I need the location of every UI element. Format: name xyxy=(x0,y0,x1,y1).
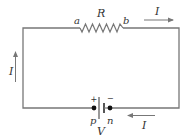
terminal-a-label: a xyxy=(74,15,80,26)
terminal-n-dot xyxy=(108,106,113,111)
wire-top-right xyxy=(110,28,179,108)
circuit-diagram: a R b I I + − p n V I xyxy=(0,0,189,138)
current-label-bottom: I xyxy=(141,119,147,132)
battery-voltage-label: V xyxy=(97,125,106,138)
battery-positive-sign: + xyxy=(91,95,98,104)
current-label-top: I xyxy=(154,5,160,18)
battery-negative-sign: − xyxy=(107,94,114,103)
terminal-p-label: p xyxy=(90,115,97,126)
resistor-label: R xyxy=(96,7,105,20)
current-label-left: I xyxy=(8,65,14,78)
circuit-wires xyxy=(23,28,179,108)
resistor-zigzag xyxy=(80,24,123,32)
terminal-p-dot xyxy=(92,106,97,111)
terminal-b-label: b xyxy=(123,15,129,26)
terminal-n-label: n xyxy=(107,115,113,126)
wire-top-left xyxy=(23,28,94,108)
